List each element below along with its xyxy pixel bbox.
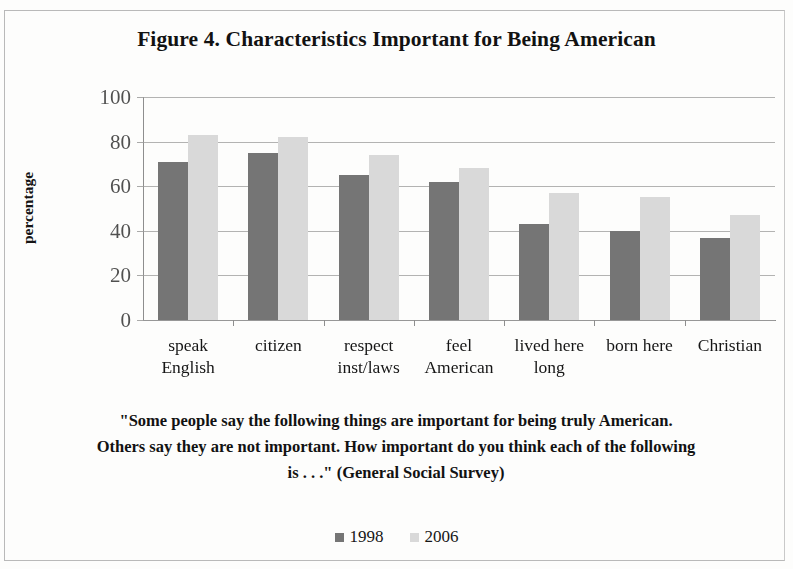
- gridline-0: 0: [143, 320, 775, 321]
- x-axis-label-line: lived here: [504, 334, 594, 356]
- x-axis-label-lived-here-long: lived herelong: [504, 334, 594, 378]
- bar-2006: [549, 193, 579, 320]
- x-axis-label-line: inst/laws: [324, 356, 414, 378]
- y-axis-title: percentage: [19, 172, 37, 244]
- x-axis-label-christian: Christian: [685, 334, 775, 378]
- x-tick-mark: [594, 320, 595, 326]
- x-axis-label-born-here: born here: [594, 334, 684, 378]
- legend-label: 2006: [425, 527, 459, 547]
- x-axis-label-line: feel: [414, 334, 504, 356]
- x-axis-labels: speakEnglishcitizenrespectinst/lawsfeelA…: [143, 334, 775, 378]
- x-tick-mark: [414, 320, 415, 326]
- bar-group: [143, 97, 233, 320]
- x-axis-label-line: English: [143, 356, 233, 378]
- bar-groups: [143, 97, 775, 320]
- x-tick-mark: [504, 320, 505, 326]
- bar-group: [233, 97, 323, 320]
- bar-1998: [248, 153, 278, 320]
- y-tick-label-0: 0: [121, 308, 132, 333]
- legend-item-2006[interactable]: 2006: [410, 527, 459, 547]
- y-tick-label-100: 100: [100, 85, 132, 110]
- x-axis-label-line: long: [504, 356, 594, 378]
- figure-caption: "Some people say the following things ar…: [96, 408, 696, 486]
- x-tick-mark: [324, 320, 325, 326]
- y-tick-label-40: 40: [110, 218, 131, 243]
- chart-legend: 19982006: [0, 527, 793, 547]
- legend-label: 1998: [350, 527, 384, 547]
- bar-1998: [158, 162, 188, 320]
- bar-1998: [519, 224, 549, 320]
- x-axis-label-line: speak: [143, 334, 233, 356]
- bar-group: [504, 97, 594, 320]
- bar-1998: [339, 175, 369, 320]
- bar-group: [594, 97, 684, 320]
- x-axis-label-respect-inst-laws: respectinst/laws: [324, 334, 414, 378]
- x-axis-label-line: born here: [594, 334, 684, 356]
- bar-group: [414, 97, 504, 320]
- bar-group: [324, 97, 414, 320]
- x-axis-label-line: American: [414, 356, 504, 378]
- legend-item-1998[interactable]: 1998: [335, 527, 384, 547]
- x-axis-label-line: Christian: [685, 334, 775, 356]
- x-axis-label-citizen: citizen: [233, 334, 323, 378]
- bar-1998: [700, 238, 730, 321]
- x-axis-label-line: citizen: [233, 334, 323, 356]
- bar-1998: [610, 231, 640, 320]
- bar-2006: [188, 135, 218, 320]
- x-tick-mark: [233, 320, 234, 326]
- y-tick-label-20: 20: [110, 263, 131, 288]
- bar-group: [685, 97, 775, 320]
- bar-2006: [730, 215, 760, 320]
- y-tick-label-60: 60: [110, 174, 131, 199]
- bar-2006: [278, 137, 308, 320]
- x-axis-label-line: respect: [324, 334, 414, 356]
- bar-1998: [429, 182, 459, 320]
- bar-2006: [369, 155, 399, 320]
- bar-2006: [459, 168, 489, 320]
- legend-swatch-2006-icon: [410, 533, 419, 542]
- plot-area: 100806040200: [143, 97, 775, 320]
- bar-2006: [640, 197, 670, 320]
- x-axis-label-speak-english: speakEnglish: [143, 334, 233, 378]
- y-tick-mark-0: [137, 320, 143, 321]
- legend-swatch-1998-icon: [335, 533, 344, 542]
- x-tick-mark: [685, 320, 686, 326]
- figure-page: Figure 4. Characteristics Important for …: [0, 0, 793, 569]
- y-tick-label-80: 80: [110, 129, 131, 154]
- x-axis-label-feel-american: feelAmerican: [414, 334, 504, 378]
